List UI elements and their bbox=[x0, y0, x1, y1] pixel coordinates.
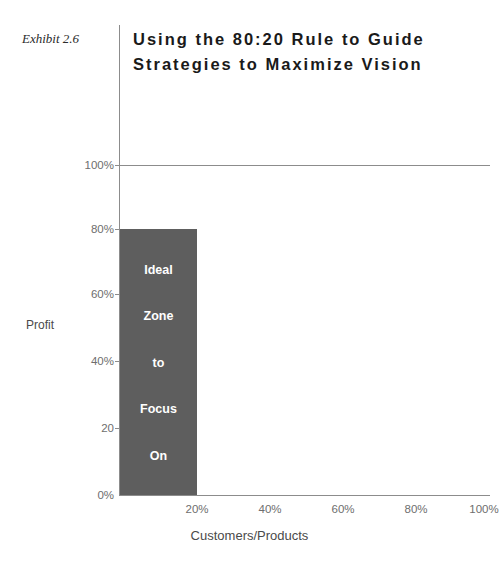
y-axis-tick-labels: 100% 80% 60% 40% 20 0% bbox=[66, 0, 114, 561]
bar-ideal-zone: Ideal Zone to Focus On bbox=[120, 229, 197, 495]
x-tick-label-60: 60% bbox=[313, 503, 373, 515]
bar-label-word-2: Zone bbox=[144, 310, 174, 323]
y-tick-label-40: 40% bbox=[70, 355, 114, 367]
x-tick-label-40: 40% bbox=[240, 503, 300, 515]
chart-title-line-1: Using the 80:20 Rule to Guide bbox=[133, 27, 483, 52]
y-tick-label-20: 20 bbox=[70, 422, 114, 434]
y-tick-mark-40 bbox=[115, 361, 119, 362]
bar-label-word-3: to bbox=[153, 357, 165, 370]
y-tick-mark-60 bbox=[115, 294, 119, 295]
x-axis-label: Customers/Products bbox=[0, 528, 499, 543]
y-axis-label: Profit bbox=[26, 318, 54, 332]
x-tick-label-80: 80% bbox=[386, 503, 446, 515]
y-tick-label-80: 80% bbox=[70, 223, 114, 235]
bar-label-word-1: Ideal bbox=[144, 264, 173, 277]
reference-line-100-percent bbox=[119, 165, 490, 166]
x-tick-label-20: 20% bbox=[167, 503, 227, 515]
x-tick-label-100: 100% bbox=[454, 503, 499, 515]
chart-title-line-2: Strategies to Maximize Vision bbox=[133, 52, 483, 77]
y-tick-mark-100 bbox=[115, 165, 119, 166]
page-title: Using the 80:20 Rule to Guide Strategies… bbox=[133, 27, 483, 77]
bar-label-word-4: Focus bbox=[140, 403, 177, 416]
x-axis-line bbox=[119, 495, 490, 496]
y-tick-label-100: 100% bbox=[70, 159, 114, 171]
y-tick-label-60: 60% bbox=[70, 288, 114, 300]
bar-label-word-5: On bbox=[150, 450, 167, 463]
y-tick-mark-20 bbox=[115, 428, 119, 429]
y-tick-mark-80 bbox=[115, 229, 119, 230]
y-tick-label-0: 0% bbox=[70, 489, 114, 501]
